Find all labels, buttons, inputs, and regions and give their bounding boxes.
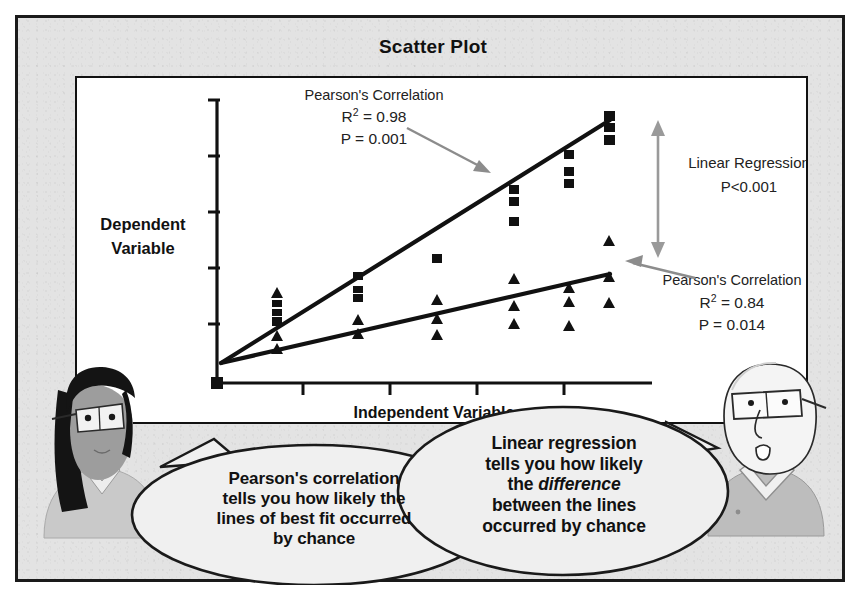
chart-panel: Pearson's Correlation R2 = 0.98 P = 0.00… bbox=[75, 76, 808, 424]
lower-series-markers bbox=[271, 235, 615, 354]
right-bubble-line-3: the difference bbox=[414, 474, 714, 495]
right-bubble-italic-word: difference bbox=[538, 474, 620, 494]
upper-correlation-callout: Pearson's Correlation R2 = 0.98 P = 0.00… bbox=[305, 87, 491, 173]
x-axis-ticks bbox=[303, 383, 564, 395]
x-axis-label: Independent Variable bbox=[354, 404, 515, 421]
woman-mouth bbox=[94, 450, 110, 453]
right-bubble-line-1: Linear regression bbox=[414, 433, 714, 454]
regression-callout-heading: Linear Regression bbox=[688, 154, 806, 171]
right-bubble-line-4: between the lines bbox=[414, 495, 714, 516]
right-bubble-line-5: occurred by chance bbox=[414, 516, 714, 537]
upper-callout-arrow-line bbox=[407, 128, 485, 169]
lower-callout-arrow-head bbox=[625, 255, 643, 267]
upper-fit-line bbox=[221, 120, 610, 363]
regression-callout-p: P<0.001 bbox=[721, 178, 777, 195]
screenshot-root: Scatter Plot bbox=[0, 0, 862, 596]
right-bubble-line-2: tells you how likely bbox=[414, 454, 714, 475]
regression-arrow-head-up bbox=[651, 120, 665, 136]
upper-callout-heading: Pearson's Correlation bbox=[305, 87, 444, 103]
man-mouth bbox=[756, 445, 770, 460]
regression-arrow-head-down bbox=[651, 242, 665, 258]
lower-callout-p: P = 0.014 bbox=[699, 316, 766, 333]
linear-regression-callout: Linear Regression P<0.001 bbox=[651, 120, 806, 258]
lower-callout-r2: R2 = 0.84 bbox=[700, 292, 765, 311]
lower-correlation-callout: Pearson's Correlation R2 = 0.84 P = 0.01… bbox=[625, 255, 801, 333]
man-collar bbox=[740, 464, 794, 500]
upper-series-markers bbox=[272, 111, 615, 326]
right-bubble-text: Linear regression tells you how likely t… bbox=[414, 433, 714, 536]
upper-callout-p: P = 0.001 bbox=[341, 130, 408, 147]
page-title: Scatter Plot bbox=[18, 36, 848, 58]
poster-frame: Scatter Plot bbox=[15, 15, 845, 582]
man-body bbox=[708, 468, 824, 536]
right-bubble-line-3-plain: the bbox=[507, 474, 538, 494]
upper-callout-arrow-head bbox=[473, 160, 491, 173]
woman-collar bbox=[84, 465, 120, 494]
man-pocket-dot bbox=[736, 510, 741, 515]
y-axis-label-line1: Dependent bbox=[100, 215, 186, 233]
upper-callout-r2: R2 = 0.98 bbox=[342, 106, 407, 125]
y-axis-label-line2: Variable bbox=[111, 239, 174, 257]
scatter-plot-svg: Pearson's Correlation R2 = 0.98 P = 0.00… bbox=[77, 78, 806, 422]
axis-labels: Dependent Variable Independent Variable bbox=[100, 215, 514, 421]
